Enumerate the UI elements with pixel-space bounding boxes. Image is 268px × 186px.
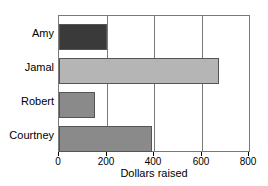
x-tick-label-400: 400 [145, 157, 162, 167]
x-tick-label-200: 200 [98, 157, 115, 167]
bar-amy [59, 24, 107, 50]
category-label-2: Robert [0, 96, 54, 107]
x-tick-label-600: 600 [193, 157, 210, 167]
y-axis-category-labels: Amy Jamal Robert Courtney [0, 0, 54, 186]
x-tick-label-0: 0 [55, 157, 61, 167]
category-label-1: Jamal [0, 62, 54, 73]
x-axis-title: Dollars raised [58, 168, 250, 179]
category-label-0: Amy [0, 28, 54, 39]
category-label-3: Courtney [0, 130, 54, 141]
bar-robert [59, 92, 95, 118]
bar-courtney [59, 126, 152, 152]
bar-jamal [59, 58, 219, 84]
x-axis: 0 200 400 600 800 [0, 152, 268, 158]
plot-area [58, 15, 250, 152]
x-tick-label-800: 800 [240, 157, 257, 167]
bar-chart: Amy Jamal Robert Courtney 0 200 400 600 … [0, 0, 268, 186]
